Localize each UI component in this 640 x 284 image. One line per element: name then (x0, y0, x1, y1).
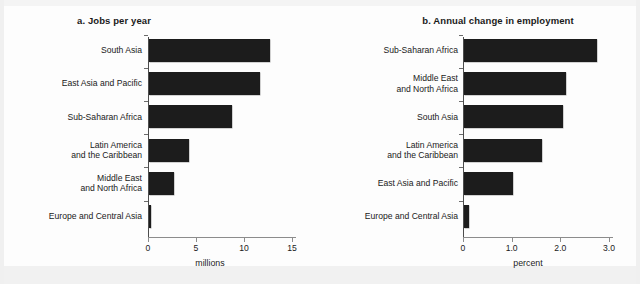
y-tick-a-1 (144, 68, 148, 69)
bar-b-3 (464, 139, 542, 162)
bar-a-3 (149, 139, 189, 162)
category-label-b-0: Sub-Saharan Africa (310, 45, 458, 56)
bar-a-1 (149, 72, 260, 95)
y-tick-b-4 (459, 167, 463, 168)
y-tick-a-3 (144, 134, 148, 135)
y-tick-b-5 (459, 201, 463, 202)
category-label-a-1: East Asia and Pacific (2, 78, 142, 89)
x-tick-label-b-2: 2.0 (554, 243, 566, 253)
y-tick-b-1 (459, 68, 463, 69)
bar-b-4 (464, 172, 513, 195)
bar-fill (149, 105, 232, 128)
bar-fill (149, 72, 260, 95)
x-tick-b-3 (609, 238, 610, 242)
bar-fill (149, 39, 270, 62)
bar-fill (149, 172, 174, 195)
bar-b-1 (464, 72, 566, 95)
category-label-b-1: Middle East and North Africa (310, 73, 458, 94)
x-tick-label-b-0: 0 (461, 243, 466, 253)
bar-b-0 (464, 39, 597, 62)
x-tick-a-0 (148, 238, 149, 242)
bar-fill (464, 105, 563, 128)
plot-area-b: 01.02.03.0 (463, 37, 613, 238)
category-label-b-2: South Asia (310, 112, 458, 123)
y-tick-a-0 (144, 35, 148, 36)
x-tick-a-3 (292, 238, 293, 242)
bar-fill (464, 205, 469, 228)
bar-fill (464, 39, 597, 62)
category-label-a-4: Middle East and North Africa (2, 173, 142, 194)
bar-fill (464, 72, 566, 95)
x-axis-caption-a: millions (195, 258, 224, 268)
chart-panel-a: a. Jobs per year 051015 millions South A… (0, 0, 320, 284)
chart-title-a: a. Jobs per year (0, 15, 274, 26)
y-tick-b-0 (459, 35, 463, 36)
bar-b-2 (464, 105, 563, 128)
bar-fill (464, 172, 513, 195)
x-axis-line-b (463, 237, 613, 238)
x-tick-a-1 (196, 238, 197, 242)
bar-a-4 (149, 172, 174, 195)
x-tick-b-1 (512, 238, 513, 242)
category-label-a-0: South Asia (2, 45, 142, 56)
bar-fill (149, 205, 151, 228)
bar-fill (149, 139, 189, 162)
category-label-a-5: Europe and Central Asia (2, 211, 142, 222)
x-axis-caption-b: percent (513, 258, 542, 268)
y-tick-a-5 (144, 201, 148, 202)
category-label-a-3: Latin America and the Caribbean (2, 140, 142, 161)
x-tick-a-2 (244, 238, 245, 242)
category-label-a-2: Sub-Saharan Africa (2, 112, 142, 123)
category-label-b-3: Latin America and the Caribbean (310, 140, 458, 161)
bar-a-2 (149, 105, 232, 128)
x-tick-label-b-1: 1.0 (506, 243, 518, 253)
plot-area-a: 051015 (148, 37, 296, 238)
bar-b-5 (464, 205, 469, 228)
category-label-b-5: Europe and Central Asia (310, 211, 458, 222)
bar-a-0 (149, 39, 270, 62)
x-tick-label-b-3: 3.0 (603, 243, 615, 253)
y-tick-a-4 (144, 167, 148, 168)
y-tick-b-3 (459, 134, 463, 135)
chart-title-b: b. Annual change in employment (338, 15, 640, 26)
category-label-b-4: East Asia and Pacific (310, 178, 458, 189)
y-tick-a-2 (144, 101, 148, 102)
x-axis-line-a (148, 237, 296, 238)
x-tick-b-2 (560, 238, 561, 242)
x-tick-label-a-2: 10 (239, 243, 249, 253)
bar-a-5 (149, 205, 151, 228)
x-tick-b-0 (463, 238, 464, 242)
y-tick-b-2 (459, 101, 463, 102)
x-tick-label-a-0: 0 (146, 243, 151, 253)
bar-fill (464, 139, 542, 162)
chart-panel-b: b. Annual change in employment 01.02.03.… (320, 0, 640, 284)
x-tick-label-a-3: 15 (287, 243, 297, 253)
figure-page: a. Jobs per year 051015 millions South A… (0, 0, 640, 284)
x-tick-label-a-1: 5 (194, 243, 199, 253)
